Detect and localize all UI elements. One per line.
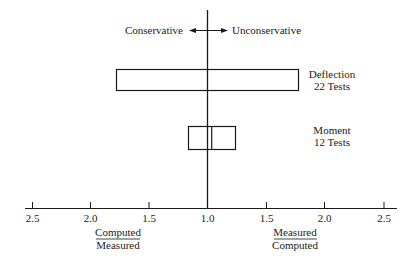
left-axis-numerator: Computed <box>95 226 141 238</box>
tick-label-left-2.0: 2.0 <box>84 212 98 224</box>
tick-label-left-1.5: 1.5 <box>142 212 156 224</box>
right-axis-denominator: Computed <box>272 239 318 251</box>
tick-label-right-2.5: 2.5 <box>377 212 391 224</box>
moment-test-count: 12 Tests <box>314 136 350 148</box>
right-axis-numerator: Measured <box>273 226 317 238</box>
x-axis-ticks <box>33 202 385 208</box>
conservative-label: Conservative <box>125 24 183 36</box>
left-axis-denominator: Measured <box>96 239 140 251</box>
double-arrow-icon <box>189 28 228 33</box>
chart-canvas: Conservative Unconservative Deflection 2… <box>0 0 417 266</box>
right-axis-label-fraction: Measured Computed <box>272 226 318 251</box>
x-axis-tick-labels: 2.5 2.0 1.5 1.0 1.5 2.0 2.5 <box>26 212 392 224</box>
tick-label-center-1.0: 1.0 <box>201 212 215 224</box>
moment-series-name: Moment <box>313 124 350 136</box>
deflection-series-name: Deflection <box>309 68 356 80</box>
tick-label-right-2.0: 2.0 <box>318 212 332 224</box>
tick-label-right-1.5: 1.5 <box>260 212 274 224</box>
deflection-test-count: 22 Tests <box>314 80 350 92</box>
unconservative-label: Unconservative <box>232 24 301 36</box>
left-axis-label-fraction: Computed Measured <box>95 226 141 251</box>
tick-label-left-2.5: 2.5 <box>26 212 40 224</box>
